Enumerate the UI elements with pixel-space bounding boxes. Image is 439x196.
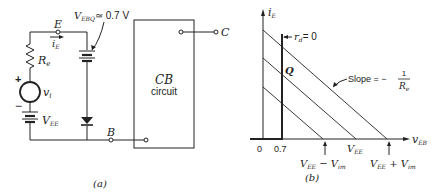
label-c: C — [221, 26, 230, 39]
tick-vee: VEE — [347, 143, 364, 155]
tick-0-7: 0.7 — [274, 144, 287, 154]
battery-vee — [22, 112, 38, 122]
y-axis-label: iE — [268, 6, 277, 19]
slope-denominator: Re — [398, 81, 410, 92]
node-b-box — [144, 138, 148, 142]
label-ie: iE — [52, 38, 60, 50]
q-point-label: Q — [285, 65, 294, 76]
wire-top-right — [60, 32, 87, 50]
label-minus: − — [15, 99, 22, 113]
tick-vee-plus-vim: VEE + Vim — [370, 158, 416, 170]
resistor-re — [26, 32, 34, 82]
box-subtitle: circuit — [151, 86, 177, 97]
caption-a: (a) — [93, 178, 107, 189]
label-vebq: VEBQ≃ 0.7 V — [74, 10, 129, 22]
label-re: Re — [37, 54, 50, 68]
battery-vebq — [79, 51, 95, 61]
x-axis-arrow-icon — [403, 137, 410, 141]
tick-vee-minus-vim: VEE − Vim — [300, 158, 346, 170]
x-axis-label: vEB — [412, 133, 428, 146]
y-axis-arrow-icon — [261, 9, 265, 16]
label-e: E — [53, 18, 62, 31]
diode-characteristic — [250, 34, 282, 139]
figure-canvas: E iE Re + − vi VEE VEBQ≃ 0.7 V B CB circ… — [0, 0, 439, 196]
vebq-pointer — [92, 22, 104, 50]
slope-numerator: 1 — [402, 69, 407, 78]
arrow-up-icon — [387, 141, 391, 146]
node-c-box — [179, 30, 183, 34]
tick-0: 0 — [257, 144, 262, 154]
label-vi: vi — [43, 86, 51, 100]
load-line-low — [263, 87, 323, 139]
rd-label: rd= 0 — [294, 31, 317, 43]
voltage-source-vi — [20, 82, 40, 102]
label-b: B — [106, 126, 115, 139]
slope-label: Slope = − — [348, 74, 387, 84]
label-vee: VEE — [42, 114, 59, 127]
rd-arrowhead-icon — [283, 35, 288, 39]
label-plus: + — [15, 73, 21, 85]
caption-b: (b) — [305, 172, 319, 183]
arrow-up-icon — [323, 141, 327, 146]
diode — [81, 117, 93, 125]
box-title: CB — [155, 73, 173, 87]
node-c — [214, 30, 218, 34]
